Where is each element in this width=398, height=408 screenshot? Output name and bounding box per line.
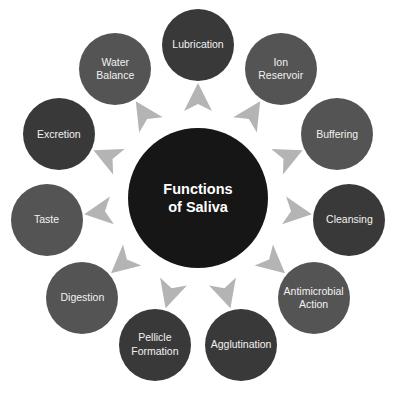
node-label-line: Antimicrobial — [284, 285, 344, 299]
node-label-line: Water — [96, 56, 134, 70]
node-label-line: Action — [284, 298, 344, 312]
node-label-line: Cleansing — [326, 213, 373, 227]
node-label-line: Pellicle — [131, 331, 178, 345]
node-lubrication: Lubrication — [162, 9, 234, 81]
arrow-icon — [152, 277, 187, 312]
functions-of-saliva-diagram: Functions of Saliva LubricationIonReserv… — [0, 0, 398, 408]
node-label-line: Balance — [96, 69, 134, 83]
arrow-icon — [209, 277, 244, 312]
node-label-line: Agglutination — [211, 338, 272, 352]
arrow-icon — [184, 83, 212, 111]
node-taste: Taste — [11, 184, 83, 256]
node-label-line: Taste — [34, 213, 59, 227]
node-antimicrobial-action: AntimicrobialAction — [278, 262, 350, 334]
node-label-line: Digestion — [60, 291, 104, 305]
node-excretion: Excretion — [23, 98, 95, 170]
node-ion-reservoir: IonReservoir — [245, 33, 317, 105]
node-label-line: Ion — [258, 56, 303, 70]
arrow-icon — [282, 196, 314, 228]
node-label-line: Reservoir — [258, 69, 303, 83]
center-label-line-2: of Saliva — [163, 198, 232, 216]
node-pellicle-formation: PellicleFormation — [119, 309, 191, 381]
center-label-line-1: Functions — [163, 180, 232, 198]
node-cleansing: Cleansing — [313, 184, 385, 256]
center-node-functions-of-saliva: Functions of Saliva — [128, 128, 268, 268]
node-label-line: Lubrication — [172, 38, 223, 52]
node-label-line: Formation — [131, 345, 178, 359]
node-agglutination: Agglutination — [205, 309, 277, 381]
node-label-line: Buffering — [316, 128, 358, 142]
node-label-line: Excretion — [37, 128, 81, 142]
arrow-icon — [82, 196, 114, 228]
